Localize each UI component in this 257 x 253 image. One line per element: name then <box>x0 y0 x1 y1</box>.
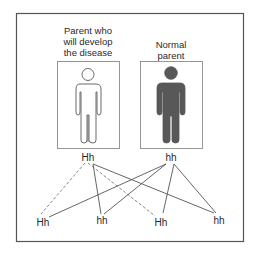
affected-parent-label: Parent who will develop the disease <box>63 25 112 58</box>
child-genotype-1: Hh <box>37 217 50 228</box>
affected-parent-genotype: Hh <box>82 152 95 163</box>
affected-parent-label-line1: Parent who <box>63 25 112 36</box>
normal-parent-label: Normal parent <box>156 39 187 61</box>
normal-parent-genotype: hh <box>165 152 176 163</box>
inheritance-diagram: Parent who will develop the disease Norm… <box>0 0 257 253</box>
outer-frame <box>17 14 244 242</box>
child-genotype-2: hh <box>96 215 107 226</box>
normal-parent-label-line1: Normal <box>156 39 187 50</box>
affected-parent-label-line3: the disease <box>63 47 112 58</box>
child-genotype-4: hh <box>213 215 224 226</box>
affected-parent-label-line2: will develop <box>63 36 112 47</box>
normal-parent-label-line2: parent <box>156 50 187 61</box>
child-genotype-3: Hh <box>155 217 168 228</box>
